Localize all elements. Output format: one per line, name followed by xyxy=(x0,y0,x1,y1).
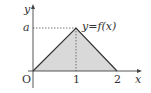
y-tick-a: a xyxy=(23,21,30,34)
origin-label: O xyxy=(22,73,31,86)
x-axis-label: x xyxy=(135,73,142,86)
function-graph: y a y=f(x) O 1 2 x xyxy=(0,0,151,93)
shaded-region xyxy=(33,28,117,71)
x-tick-1: 1 xyxy=(73,73,80,86)
x-tick-2: 2 xyxy=(114,73,121,86)
y-axis-label: y xyxy=(23,3,31,16)
function-label: y=f(x) xyxy=(81,20,116,33)
y-axis-arrow-icon xyxy=(31,4,35,9)
